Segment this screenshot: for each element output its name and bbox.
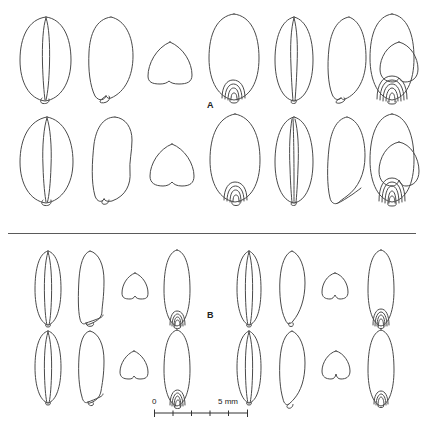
specimen-b-r2-c7 bbox=[320, 349, 352, 381]
specimen-b-r1-c3 bbox=[120, 271, 150, 301]
figure-plate: A B 0 5 mm bbox=[0, 0, 424, 431]
panel-label-b: B bbox=[207, 311, 214, 320]
specimen-a-r1-c4 bbox=[206, 12, 262, 104]
specimen-b-r1-c6 bbox=[276, 249, 308, 327]
specimen-a-r1-c3 bbox=[146, 40, 194, 86]
scale-bar-min-label: 0 bbox=[152, 396, 156, 407]
scale-bar-max-label: 5 mm bbox=[218, 396, 238, 407]
specimen-b-r2-c8 bbox=[364, 328, 398, 408]
specimen-a-r2-c4 bbox=[207, 112, 263, 206]
specimen-b-r1-c8 bbox=[364, 248, 398, 328]
specimen-a-r2-c6 bbox=[325, 114, 371, 208]
specimen-a-r1-c5 bbox=[272, 14, 316, 104]
panel-a bbox=[0, 0, 424, 233]
scale-bar: 0 5 mm bbox=[152, 396, 270, 422]
specimen-b-r2-c1 bbox=[32, 329, 64, 405]
specimen-b-r2-c2 bbox=[76, 329, 108, 407]
specimen-b-r1-c4 bbox=[161, 248, 193, 328]
scale-bar-labels: 0 5 mm bbox=[152, 396, 270, 407]
scale-bar-ruler bbox=[153, 409, 249, 419]
specimen-b-r1-c1 bbox=[32, 249, 64, 327]
specimen-b-r2-c5 bbox=[234, 329, 264, 405]
specimen-a-r2-c8 bbox=[366, 112, 418, 206]
specimen-a-r1-c6 bbox=[325, 14, 369, 104]
specimen-b-r2-c6 bbox=[276, 329, 308, 409]
specimen-a-r1-c2 bbox=[85, 14, 137, 104]
specimen-b-r2-c3 bbox=[118, 349, 150, 381]
specimen-a-r2-c2 bbox=[88, 114, 140, 206]
specimen-a-r2-c1 bbox=[16, 114, 78, 206]
panel-label-a: A bbox=[207, 101, 214, 110]
specimen-a-r1-c1 bbox=[16, 14, 76, 104]
specimen-a-r2-c5 bbox=[272, 114, 316, 206]
specimen-a-r1-c8 bbox=[366, 12, 418, 104]
specimen-b-r1-c7 bbox=[320, 271, 350, 301]
specimen-b-r1-c5 bbox=[234, 249, 264, 327]
specimen-b-r1-c2 bbox=[76, 249, 108, 327]
specimen-a-r2-c3 bbox=[148, 142, 196, 188]
